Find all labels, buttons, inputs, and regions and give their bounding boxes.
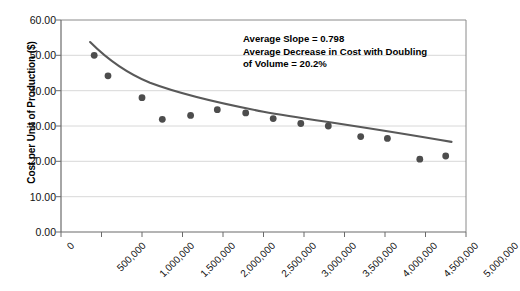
data-point — [297, 120, 304, 127]
data-point — [159, 116, 166, 123]
data-point — [214, 106, 221, 113]
annotation-line-1: Average Slope = 0.798 — [243, 33, 344, 46]
x-tick-marks — [61, 232, 466, 237]
data-point — [442, 153, 449, 160]
data-point — [139, 94, 146, 101]
data-point — [325, 123, 332, 130]
data-point — [416, 156, 423, 163]
data-point — [187, 112, 194, 119]
data-point — [91, 52, 98, 59]
data-point — [242, 110, 249, 117]
data-point — [357, 133, 364, 140]
y-tick-marks — [56, 20, 61, 232]
data-point — [384, 135, 391, 142]
annotation-line-3: of Volume = 20.2% — [243, 58, 327, 71]
x-tick-label: 5,000,000 — [481, 240, 520, 279]
data-point — [105, 72, 112, 79]
data-point — [270, 115, 277, 122]
annotation-line-2: Average Decrease in Cost with Doubling — [243, 46, 427, 59]
